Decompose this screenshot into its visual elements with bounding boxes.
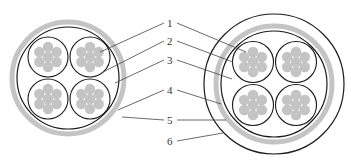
callout-labels: 1 2 3 4 5 6 [167,17,173,147]
label-5: 5 [167,114,173,126]
label-1: 1 [167,17,173,29]
label-2: 2 [167,35,173,47]
left-conductor-bottom-left [28,79,68,119]
right-conductor-top-right [276,42,317,83]
left-conductor-bottom-right [70,79,110,119]
right-conductor-bottom-left [233,85,274,126]
label-3: 3 [167,54,173,66]
label-6: 6 [167,135,173,147]
label-4: 4 [167,84,173,96]
left-cable [12,22,124,134]
cable-diagram: 1 2 3 4 5 6 [0,0,351,167]
left-conductor-top-right [70,37,110,77]
right-conductor-top-left [233,42,274,83]
left-conductor-top-left [28,37,68,77]
right-cable [204,14,344,154]
right-conductor-bottom-right [276,85,317,126]
right-inner-jacket [221,31,327,137]
